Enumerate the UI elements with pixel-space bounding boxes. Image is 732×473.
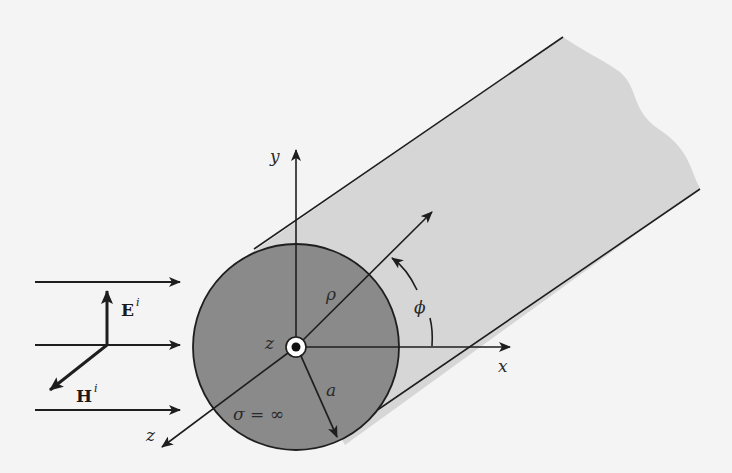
z-origin-dot	[292, 343, 301, 352]
h-field-superscript: i	[94, 382, 98, 395]
x-axis-label: x	[498, 356, 508, 376]
h-field-label: H	[76, 386, 92, 406]
e-field-superscript: i	[136, 296, 140, 309]
e-field-label: E	[121, 300, 134, 320]
cylinder-scattering-diagram: E i H i y x z ρ a ϕ z σ = ∞	[0, 0, 732, 473]
h-field-vector	[50, 345, 107, 390]
z-axis-label: z	[145, 425, 156, 445]
phi-label: ϕ	[414, 297, 426, 317]
y-axis-label: y	[269, 146, 280, 166]
z-origin-label: z	[264, 333, 275, 353]
conductivity-label: σ = ∞	[233, 404, 284, 424]
rho-label: ρ	[325, 284, 336, 304]
radius-label: a	[326, 380, 336, 400]
